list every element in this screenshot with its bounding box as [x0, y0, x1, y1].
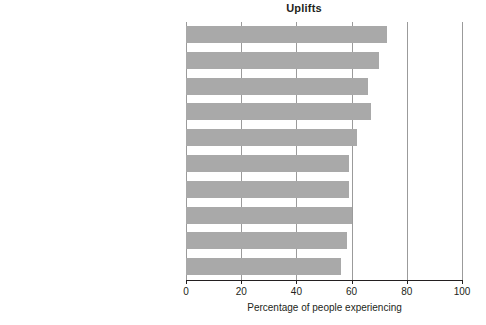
bar-row: Visiting, phoning, or writing someone — [186, 203, 462, 229]
bar-row: Home (inside) pleasing to you — [186, 254, 462, 280]
bar-row: Meeting responsibilities — [186, 177, 462, 203]
bar-row: Spending time with family — [186, 228, 462, 254]
bar-row: Feeling healthy — [186, 99, 462, 125]
bar — [186, 26, 387, 43]
bar-row: Completing a task — [186, 74, 462, 100]
x-tick-20 — [241, 280, 242, 284]
bar — [186, 103, 371, 120]
x-tick-40 — [296, 280, 297, 284]
chart-title: Uplifts — [0, 2, 486, 14]
gridline-100 — [462, 22, 463, 280]
x-tick-0 — [186, 280, 187, 284]
x-tick-label: 20 — [236, 286, 247, 297]
bar — [186, 258, 341, 275]
x-tick-label: 100 — [454, 286, 471, 297]
x-tick-label: 60 — [346, 286, 357, 297]
bar-chart: Uplifts Relating well with spouse or lov… — [0, 0, 486, 325]
bar — [186, 155, 349, 172]
x-tick-100 — [462, 280, 463, 284]
x-tick-label: 80 — [401, 286, 412, 297]
bar-row: Getting enough sleep — [186, 125, 462, 151]
x-tick-80 — [407, 280, 408, 284]
x-tick-label: 40 — [291, 286, 302, 297]
x-axis-title: Percentage of people experiencing — [186, 302, 463, 313]
x-tick-60 — [352, 280, 353, 284]
bar — [186, 232, 347, 249]
bar — [186, 129, 357, 146]
bar — [186, 207, 352, 224]
bar-row: Relating well with friends — [186, 48, 462, 74]
bar-row: Relating well with spouse or lover — [186, 22, 462, 48]
bar — [186, 181, 349, 198]
plot-area: Relating well with spouse or loverRelati… — [186, 22, 462, 280]
bar — [186, 78, 368, 95]
bar-row: Eating out — [186, 151, 462, 177]
bar — [186, 52, 379, 69]
x-tick-label: 0 — [183, 286, 189, 297]
x-axis-line — [186, 280, 463, 281]
